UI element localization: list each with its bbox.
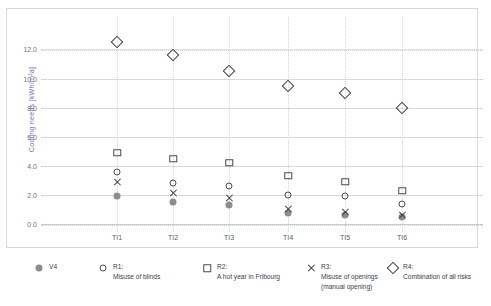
legend-label: R2:A hot year in Fribourg bbox=[217, 262, 280, 282]
legend-glyph bbox=[98, 263, 108, 273]
data-point-R3-TI2 bbox=[169, 189, 178, 198]
legend-glyph bbox=[202, 263, 212, 273]
legend-glyph bbox=[388, 263, 398, 273]
legend-label-main: R4: bbox=[403, 263, 413, 270]
x-gridline bbox=[402, 17, 403, 232]
plot-area: 0.02.04.06.08.010.012.0TI1TI2TI3TI4TI5TI… bbox=[41, 11, 483, 249]
x-tick-label: TI6 bbox=[397, 234, 407, 241]
data-point-V4-TI3 bbox=[226, 202, 233, 209]
data-point-V4-TI2 bbox=[170, 199, 177, 206]
open-diamond-icon bbox=[387, 262, 400, 275]
data-point-R3-TI1 bbox=[113, 177, 122, 186]
x-tick-label: TI5 bbox=[340, 234, 350, 241]
y-tick-label: 6.0 bbox=[27, 133, 37, 140]
legend-item-R4[interactable]: R4:Combination of all risks bbox=[388, 262, 471, 282]
data-point-R4-TI4 bbox=[282, 79, 295, 92]
legend-label-main: R3: bbox=[321, 263, 331, 270]
data-point-R2-TI3 bbox=[225, 159, 233, 167]
data-point-V4-TI1 bbox=[114, 193, 121, 200]
legend-label-sub: Misuse of blinds bbox=[113, 272, 160, 282]
y-tick-label: 12.0 bbox=[23, 46, 37, 53]
legend-glyph bbox=[34, 263, 44, 273]
data-point-R2-TI6 bbox=[398, 187, 406, 195]
data-point-R1-TI5 bbox=[342, 193, 349, 200]
y-tick-label: 10.0 bbox=[23, 75, 37, 82]
data-point-R3-TI6 bbox=[398, 211, 407, 220]
data-point-R3-TI4 bbox=[284, 205, 293, 214]
y-tick-label: 0.0 bbox=[27, 221, 37, 228]
legend-item-R1[interactable]: R1:Misuse of blinds bbox=[98, 262, 160, 282]
chart-frame: Cooling needs [kWh/m²a] 0.02.04.06.08.01… bbox=[6, 8, 478, 248]
data-point-R2-TI5 bbox=[341, 178, 349, 186]
legend-label-sub: A hot year in Fribourg bbox=[217, 272, 280, 282]
legend-label-sub2: (manual opening) bbox=[321, 282, 378, 292]
legend-item-R3[interactable]: R3:Misuse of openings(manual opening) bbox=[306, 262, 378, 293]
legend-item-R2[interactable]: R2:A hot year in Fribourg bbox=[202, 262, 280, 282]
legend-label-main: V4 bbox=[49, 263, 57, 270]
x-tick-label: TI3 bbox=[224, 234, 234, 241]
x-tick-label: TI4 bbox=[283, 234, 293, 241]
x-tick-label: TI1 bbox=[112, 234, 122, 241]
y-tick-label: 2.0 bbox=[27, 191, 37, 198]
data-point-R2-TI2 bbox=[169, 155, 177, 163]
y-gridline-dotted bbox=[41, 195, 483, 196]
legend-label-main: R2: bbox=[217, 263, 227, 270]
y-gridline-dotted bbox=[41, 166, 483, 167]
legend-label: V4 bbox=[49, 262, 57, 272]
y-gridline-dotted bbox=[41, 50, 483, 51]
legend-item-V4[interactable]: V4 bbox=[34, 262, 57, 273]
data-point-R2-TI4 bbox=[284, 172, 292, 180]
x-axis-line bbox=[41, 224, 483, 225]
data-point-R1-TI4 bbox=[285, 191, 292, 198]
data-point-R1-TI1 bbox=[114, 168, 121, 175]
x-gridline bbox=[288, 17, 289, 232]
legend-label-sub: Misuse of openings bbox=[321, 272, 378, 282]
data-point-R3-TI5 bbox=[341, 207, 350, 216]
x-tick-label: TI2 bbox=[168, 234, 178, 241]
chart-legend: V4R1:Misuse of blindsR2:A hot year in Fr… bbox=[6, 262, 485, 302]
y-tick-label: 4.0 bbox=[27, 162, 37, 169]
data-point-R1-TI3 bbox=[226, 183, 233, 190]
open-square-icon bbox=[203, 264, 211, 272]
y-gridline-dotted bbox=[41, 108, 483, 109]
data-point-R4-TI1 bbox=[111, 36, 124, 49]
filled-circle-icon bbox=[36, 265, 43, 272]
legend-glyph bbox=[306, 263, 316, 273]
legend-label: R4:Combination of all risks bbox=[403, 262, 471, 282]
legend-label-main: R1: bbox=[113, 263, 123, 270]
y-gridline-dotted bbox=[41, 79, 483, 80]
y-tick-label: 8.0 bbox=[27, 104, 37, 111]
data-point-R4-TI3 bbox=[223, 65, 236, 78]
data-point-R2-TI1 bbox=[113, 149, 121, 157]
legend-label: R3:Misuse of openings(manual opening) bbox=[321, 262, 378, 293]
y-gridline-dotted bbox=[41, 137, 483, 138]
legend-label-sub: Combination of all risks bbox=[403, 272, 471, 282]
data-point-R4-TI6 bbox=[396, 101, 409, 114]
legend-label: R1:Misuse of blinds bbox=[113, 262, 160, 282]
data-point-R1-TI6 bbox=[399, 201, 406, 208]
data-point-R1-TI2 bbox=[170, 180, 177, 187]
data-point-R3-TI3 bbox=[225, 193, 234, 202]
open-circle-icon bbox=[100, 265, 107, 272]
cross-icon bbox=[307, 264, 316, 273]
data-point-R4-TI5 bbox=[339, 87, 352, 100]
